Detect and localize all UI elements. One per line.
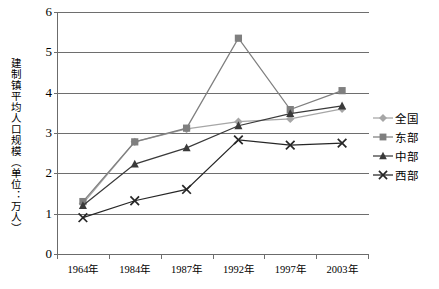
legend-label: 东部: [394, 129, 418, 145]
x-marker-icon: [372, 167, 394, 183]
series-中部: [79, 102, 346, 209]
series-line: [83, 106, 342, 206]
x-tick-label: 2003年: [327, 261, 358, 276]
x-tick-label: 1984年: [119, 261, 150, 276]
legend-label: 西部: [394, 167, 418, 183]
data-point-marker: [338, 87, 345, 94]
data-point-marker: [235, 35, 242, 42]
data-point-marker: [79, 213, 88, 222]
chart-legend: 全国东部中部西部: [372, 108, 438, 184]
diamond-marker-icon: [372, 110, 394, 126]
x-tick-mark: [264, 254, 265, 259]
x-tick-mark: [213, 254, 214, 259]
x-tick-mark: [161, 254, 162, 259]
triangle-marker-icon: [372, 148, 394, 164]
data-point-marker: [130, 196, 139, 205]
x-tick-mark: [368, 254, 369, 259]
data-point-marker: [182, 185, 191, 194]
legend-label: 中部: [394, 148, 418, 164]
x-tick-label: 1964年: [67, 261, 98, 276]
legend-item-西部[interactable]: 西部: [372, 165, 438, 184]
square-marker-icon: [372, 129, 394, 145]
data-point-marker: [338, 102, 346, 110]
x-tick-mark: [316, 254, 317, 259]
legend-item-东部[interactable]: 东部: [372, 127, 438, 146]
x-tick-label: 1987年: [171, 261, 202, 276]
legend-item-中部[interactable]: 中部: [372, 146, 438, 165]
x-tick-label: 1992年: [223, 261, 254, 276]
data-point-marker: [131, 138, 138, 145]
x-tick-mark: [57, 254, 58, 259]
line-chart: 建制镇平均人口规模（单位：万人） 0123456 全国东部中部西部 1964年1…: [0, 0, 439, 289]
legend-item-全国[interactable]: 全国: [372, 108, 438, 127]
series-西部: [79, 136, 347, 222]
series-东部: [79, 35, 345, 206]
series-line: [83, 140, 342, 218]
x-tick-mark: [109, 254, 110, 259]
data-point-marker: [183, 144, 191, 152]
x-tick-label: 1997年: [275, 261, 306, 276]
legend-label: 全国: [394, 110, 418, 126]
series-全国: [79, 105, 347, 208]
series-line: [83, 38, 342, 201]
data-point-marker: [183, 125, 190, 132]
